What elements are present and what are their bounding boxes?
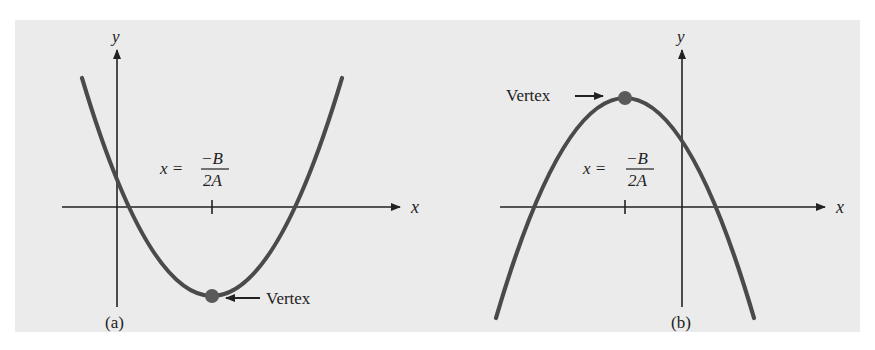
panel-a-y-axis-label: y (110, 27, 120, 46)
panel-b-caption: (b) (671, 313, 691, 332)
panel-a-formula-lhs: x = (159, 159, 183, 178)
panel-a-x-axis-label: x (410, 197, 419, 217)
panel-a: y x Vertex x = −B 2A (a) (62, 27, 419, 332)
panel-b-formula-numerator: −B (626, 149, 648, 168)
panel-b-vertex-label: Vertex (506, 86, 551, 105)
panel-a-caption: (a) (105, 313, 124, 332)
panel-a-vertex-point (205, 289, 219, 303)
panel-b: y x Vertex x = −B 2A (b) (496, 27, 844, 332)
panel-a-vertex-formula: x = −B 2A (159, 149, 229, 190)
panel-b-vertex-point (618, 91, 632, 105)
panel-b-x-axis-label: x (835, 197, 844, 217)
panel-b-formula-lhs: x = (582, 159, 606, 178)
panel-b-y-axis-label: y (675, 27, 685, 46)
panel-a-formula-numerator: −B (201, 149, 223, 168)
panel-a-formula-denominator: 2A (203, 171, 223, 190)
parabola-figure: y x Vertex x = −B 2A (a) y x (0, 0, 875, 350)
panel-b-formula-denominator: 2A (628, 171, 648, 190)
panel-a-vertex-label: Vertex (266, 289, 311, 308)
panel-b-vertex-formula: x = −B 2A (582, 149, 654, 190)
